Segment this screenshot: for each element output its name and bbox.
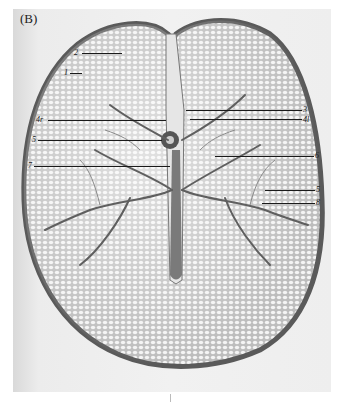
specimen-section-image — [0, 0, 343, 404]
leader-line — [82, 53, 122, 54]
label-4r: 4r — [36, 116, 43, 124]
label-4l: 4l — [303, 116, 309, 124]
leader-line — [34, 166, 170, 167]
label-5-right: 5 — [316, 186, 320, 194]
panel-label: (B) — [20, 11, 37, 27]
leader-line — [215, 156, 314, 157]
leader-line — [265, 190, 315, 191]
label-2: 2 — [74, 49, 78, 57]
page-mark — [170, 394, 171, 402]
leader-line — [38, 140, 162, 141]
leader-line — [186, 110, 302, 111]
label-8: 8 — [316, 199, 320, 207]
label-3: 3 — [303, 106, 307, 114]
label-1: 1 — [64, 69, 68, 77]
label-6: 6 — [315, 152, 319, 160]
leader-line — [48, 120, 166, 121]
label-7: 7 — [28, 162, 32, 170]
leader-line — [262, 203, 315, 204]
leader-line — [70, 73, 82, 74]
leader-line — [190, 119, 302, 120]
label-5-left: 5 — [32, 136, 36, 144]
